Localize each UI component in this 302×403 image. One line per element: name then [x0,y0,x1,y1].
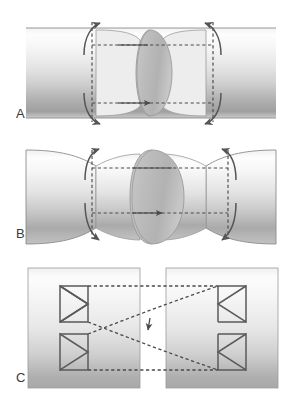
arrow-cross-c [148,318,150,330]
panel-label-b: B [16,226,25,241]
panel-label-c: C [16,370,26,385]
tube-right-flare-b [206,150,276,244]
panel-b: B [16,149,276,244]
figure-root: A B [0,0,302,403]
tube-left-flare-b [26,150,96,244]
panel-c: C [16,268,278,388]
figure-svg: A B [0,0,302,403]
panel-a: A [16,22,276,124]
central-disc-b [130,150,184,244]
panel-label-a: A [16,106,25,121]
